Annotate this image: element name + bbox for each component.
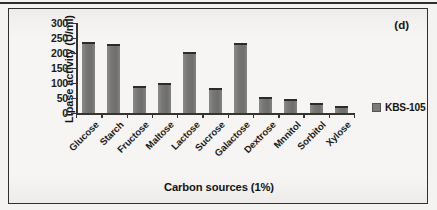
bar-glucose — [82, 42, 95, 113]
x-axis-line — [76, 113, 354, 115]
legend-label-kbs-105: KBS-105 — [385, 102, 426, 113]
y-tick-label: 150 — [51, 62, 68, 74]
x-tick — [329, 113, 330, 118]
bar-sorbitol — [310, 103, 323, 113]
figure-page: (d) Lipase activity (U/ml) 0501001502002… — [0, 0, 437, 210]
x-tick — [101, 113, 102, 118]
bar-maltose — [158, 83, 171, 113]
bar-xylose — [335, 106, 348, 114]
bar-fructose — [133, 86, 146, 113]
bar-mnnitol — [284, 99, 297, 113]
plot-area: 050100150200250300 GlucoseStarchFructose… — [76, 23, 354, 113]
page-top-rule — [0, 2, 437, 4]
legend: KBS-105 — [372, 102, 426, 113]
y-tick — [71, 53, 76, 54]
x-tick — [354, 113, 355, 118]
y-tick — [71, 98, 76, 99]
y-tick — [71, 38, 76, 39]
y-tick — [71, 68, 76, 69]
x-tick — [202, 113, 203, 118]
x-tick — [127, 113, 128, 118]
y-tick-label: 300 — [51, 17, 68, 29]
x-tick — [303, 113, 304, 118]
y-tick — [71, 83, 76, 84]
y-tick-label: 200 — [51, 47, 68, 59]
x-tick — [152, 113, 153, 118]
x-category-label: Xylose — [324, 119, 353, 148]
y-tick-label: 100 — [51, 77, 68, 89]
x-tick — [253, 113, 254, 118]
panel-label: (d) — [394, 19, 409, 31]
figure-border: (d) Lipase activity (U/ml) 0501001502002… — [8, 8, 428, 204]
bar-dextrose — [259, 97, 272, 114]
legend-swatch-kbs-105 — [372, 103, 381, 112]
bar-lactose — [183, 52, 196, 113]
y-tick-label: 50 — [57, 92, 68, 104]
bar-galactose — [234, 43, 247, 113]
bar-starch — [107, 44, 120, 113]
x-tick — [278, 113, 279, 118]
x-tick — [76, 113, 77, 118]
y-tick-label: 0 — [62, 107, 68, 119]
y-tick-label: 250 — [51, 32, 68, 44]
x-category-label: Glucose — [66, 119, 100, 153]
x-axis-title: Carbon sources (1%) — [69, 181, 369, 193]
x-tick — [228, 113, 229, 118]
y-tick — [71, 23, 76, 24]
bar-sucrose — [209, 88, 222, 114]
x-tick — [177, 113, 178, 118]
y-axis-line — [76, 23, 78, 113]
